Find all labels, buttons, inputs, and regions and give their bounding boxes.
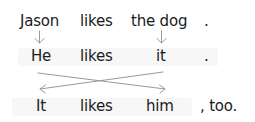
arrow-cross-right-icon — [38, 73, 165, 93]
arrows-layer — [0, 0, 255, 122]
arrow-down-icon — [157, 31, 166, 43]
arrow-down-icon — [35, 31, 44, 43]
